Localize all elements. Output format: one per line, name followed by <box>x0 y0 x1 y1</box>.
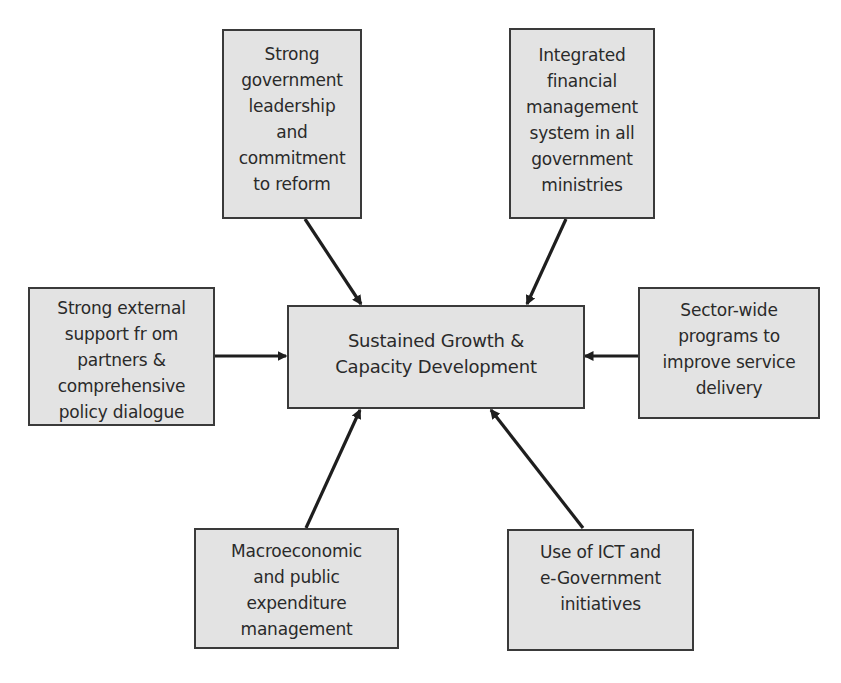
diagram-canvas: Strong government leadership and commitm… <box>0 0 841 683</box>
node-label: Strong government leadership and commitm… <box>239 41 346 197</box>
node-right: Sector-wide programs to improve service … <box>638 287 820 419</box>
node-top-right: Integrated financial management system i… <box>509 28 655 219</box>
node-bottom-left: Macroeconomic and public expenditure man… <box>194 528 399 649</box>
node-label: Use of ICT and e-Government initiatives <box>540 539 661 617</box>
node-label: Macroeconomic and public expenditure man… <box>231 538 362 642</box>
figure-caption-cropped <box>42 678 342 683</box>
node-bottom-right: Use of ICT and e-Government initiatives <box>507 529 694 651</box>
arrow-bottom-right-to-center <box>491 410 583 528</box>
node-center: Sustained Growth & Capacity Development <box>287 305 585 409</box>
node-label: Integrated financial management system i… <box>526 42 638 198</box>
node-top-left: Strong government leadership and commitm… <box>222 29 362 219</box>
arrow-top-left-to-center <box>305 219 361 304</box>
arrow-bottom-left-to-center <box>306 410 360 528</box>
node-label: Sector-wide programs to improve service … <box>663 297 796 401</box>
center-label: Sustained Growth & Capacity Development <box>335 328 537 380</box>
node-label: Strong external support fr om partners &… <box>57 295 185 425</box>
node-left: Strong external support fr om partners &… <box>28 287 215 426</box>
arrow-top-right-to-center <box>527 219 566 304</box>
